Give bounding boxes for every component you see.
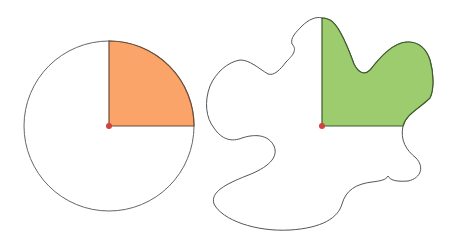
blob-center-point [319, 123, 325, 129]
blob-figure [207, 17, 433, 230]
circle-center-point [106, 123, 112, 129]
quarter-sector [109, 41, 194, 126]
diagram-canvas [0, 0, 459, 243]
circle-figure [24, 41, 194, 211]
blob-shaded-region [322, 18, 433, 126]
